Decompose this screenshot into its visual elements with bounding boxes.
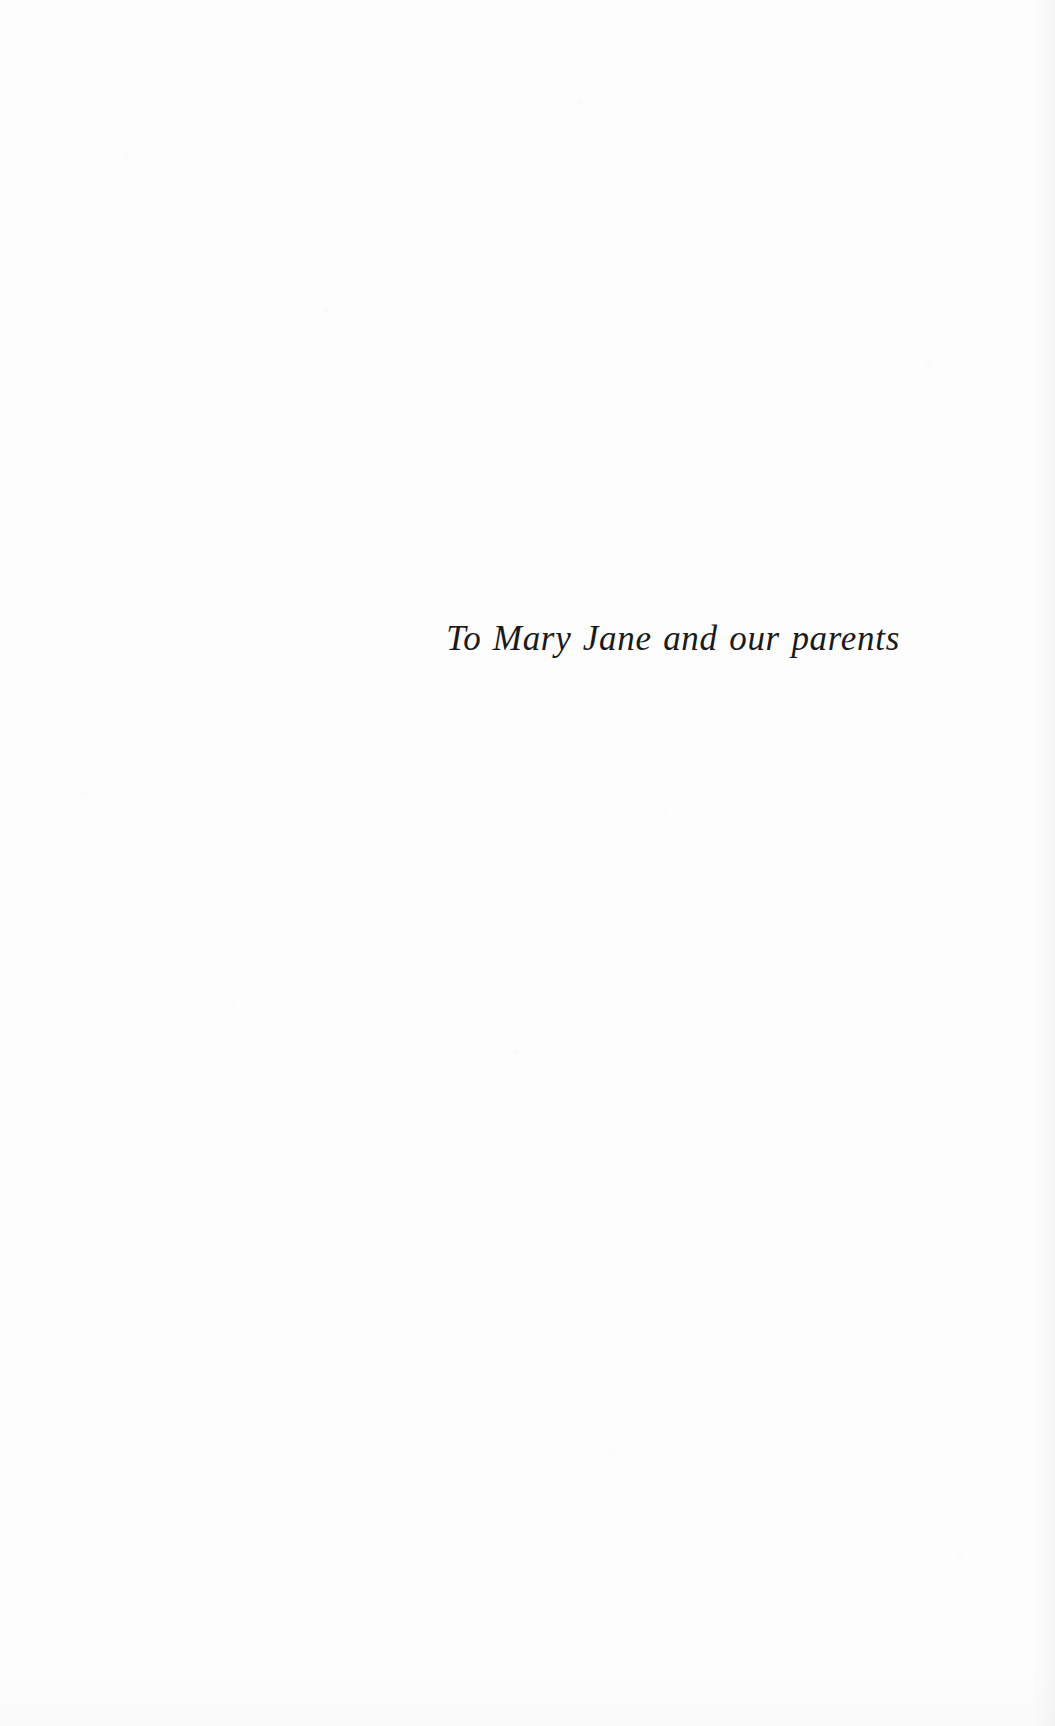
dedication-text: To Mary Jane and our parents: [446, 616, 900, 662]
scan-edge-shadow-bottom: [0, 1666, 1055, 1726]
paper-grain-texture: [0, 0, 1055, 1726]
dedication-block: To Mary Jane and our parents: [0, 616, 1055, 662]
document-page: To Mary Jane and our parents: [0, 0, 1055, 1726]
scan-edge-shadow-right: [1029, 0, 1055, 1726]
